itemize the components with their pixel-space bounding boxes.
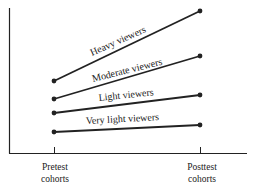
- data-point-very-light-viewers-posttest: [198, 123, 203, 128]
- label-very-light-viewers: Very light viewers: [86, 111, 160, 126]
- data-point-heavy-viewers-pretest: [52, 79, 57, 84]
- line-chart: Heavy viewers Moderate viewers Light vie…: [0, 0, 253, 187]
- data-point-light-viewers-pretest: [52, 111, 57, 116]
- data-point-light-viewers-posttest: [198, 93, 203, 98]
- series-line-very-light-viewers: [54, 125, 200, 132]
- x-label-pretest-line2: cohorts: [41, 174, 69, 184]
- x-label-pretest-line1: Pretest: [42, 162, 68, 172]
- label-light-viewers: Light viewers: [98, 86, 154, 103]
- data-point-heavy-viewers-posttest: [198, 9, 203, 14]
- data-point-very-light-viewers-pretest: [52, 130, 57, 135]
- data-point-moderate-viewers-posttest: [198, 54, 203, 59]
- x-label-posttest-line1: Posttest: [187, 162, 217, 172]
- x-label-posttest-line2: cohorts: [188, 174, 216, 184]
- data-point-moderate-viewers-pretest: [52, 97, 57, 102]
